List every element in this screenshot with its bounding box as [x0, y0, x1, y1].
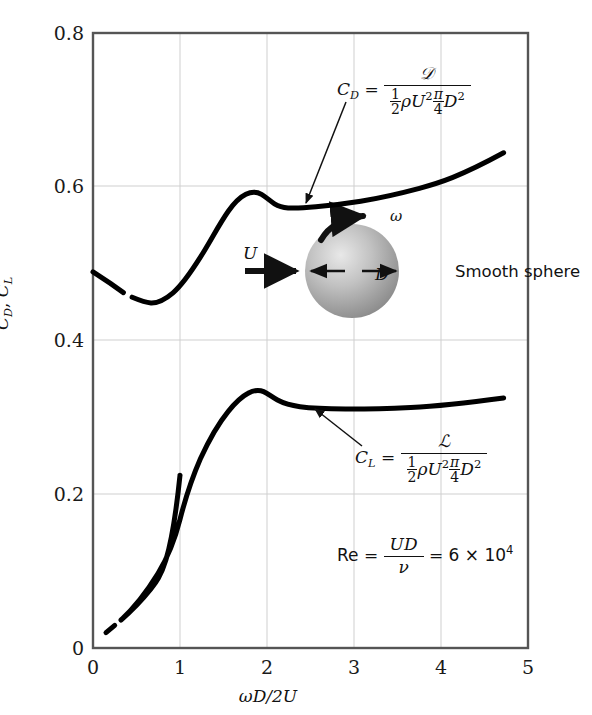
- omega-label: ω: [390, 207, 402, 225]
- cl-u-exponent: 2: [442, 457, 449, 471]
- cd-d: D: [444, 90, 458, 110]
- cd-half-num: 1: [390, 87, 401, 103]
- x-tick-label: 5: [522, 656, 534, 678]
- cd-formula-annotation: CD = 𝒟 12ρU2π4D2: [337, 64, 471, 117]
- y-tick-label: 0.2: [54, 483, 84, 505]
- cd-half-den: 2: [390, 102, 401, 117]
- figure-container: 0.8 0.6 0.4 0.2 0 0 1 2 3 4 5: [0, 0, 592, 715]
- cl-pi-den: 4: [449, 470, 460, 485]
- cd-d-exponent: 2: [457, 89, 464, 103]
- reynolds-annotation: Re = UD ν = 6 × 104: [337, 535, 513, 577]
- x-tick-label: 2: [261, 656, 273, 678]
- x-tick-labels: 0 1 2 3 4 5: [87, 656, 534, 678]
- cl-fraction: ℒ 12ρU2π4D2: [401, 432, 488, 485]
- cd-rho: ρ: [401, 90, 411, 110]
- cd-equals-sign: =: [364, 79, 378, 99]
- x-axis-d: D: [253, 686, 267, 706]
- cd-pi-num: π: [433, 87, 444, 103]
- cd-half-fraction: 12: [390, 87, 401, 117]
- cd-denominator: 12ρU2π4D2: [384, 86, 471, 117]
- smooth-sphere-label: Smooth sphere: [455, 262, 580, 281]
- x-axis-title: ωD/2U: [239, 686, 297, 706]
- cd-u-exponent: 2: [425, 89, 432, 103]
- reynolds-equals-2: =: [429, 545, 443, 565]
- cd-fraction: 𝒟 12ρU2π4D2: [384, 64, 471, 117]
- cl-half-num: 1: [407, 455, 418, 471]
- cl-pi-fraction: π4: [449, 455, 460, 485]
- cd-u: U: [411, 90, 425, 110]
- cl-curve-segment-2: [121, 390, 504, 620]
- cl-curve-segment-1: [106, 625, 115, 632]
- x-tick-label: 0: [87, 656, 99, 678]
- cl-u: U: [427, 458, 441, 478]
- cl-d-exponent: 2: [474, 457, 481, 471]
- cd-symbol: C: [337, 79, 350, 99]
- y-axis-cl-symbol: C: [0, 284, 12, 297]
- reynolds-equals-1: =: [364, 545, 378, 565]
- y-tick-label: 0: [72, 637, 84, 659]
- reynolds-denominator: ν: [384, 557, 424, 578]
- cl-d: D: [460, 458, 474, 478]
- x-tick-label: 3: [348, 656, 360, 678]
- y-axis-title-cd: CD: [0, 308, 12, 330]
- cl-rho: ρ: [417, 458, 427, 478]
- cl-symbol: C: [355, 447, 368, 467]
- y-axis-cd-subscript: D: [2, 308, 15, 317]
- reynolds-symbol: Re: [337, 545, 359, 565]
- reynolds-value-group: 6 × 104: [449, 545, 514, 565]
- reynolds-numerator: UD: [384, 535, 424, 557]
- x-tick-label: 4: [435, 656, 447, 678]
- cl-half-den: 2: [407, 470, 418, 485]
- cd-curve-segment-1: [93, 272, 123, 293]
- cl-equals-sign: =: [381, 447, 395, 467]
- y-tick-label: 0.4: [54, 329, 84, 351]
- y-axis-cl-subscript: L: [2, 277, 15, 284]
- reynolds-exponent: 4: [506, 543, 513, 557]
- curve-cd: [93, 153, 504, 303]
- x-axis-u: U: [283, 686, 297, 706]
- cl-denominator: 12ρU2π4D2: [401, 454, 488, 485]
- x-tick-label: 1: [174, 656, 186, 678]
- y-tick-label: 0.6: [54, 175, 84, 197]
- y-axis-cd-symbol: C: [0, 317, 12, 330]
- reynolds-fraction: UD ν: [384, 535, 424, 577]
- cl-pi-num: π: [449, 455, 460, 471]
- y-tick-label: 0.8: [54, 22, 84, 44]
- cd-numerator-drag: 𝒟: [384, 64, 471, 86]
- cd-subscript: D: [350, 89, 359, 102]
- velocity-label: U: [243, 243, 257, 263]
- x-axis-slash: /2: [266, 686, 283, 706]
- cl-numerator-lift: ℒ: [401, 432, 488, 454]
- cl-formula-annotation: CL = ℒ 12ρU2π4D2: [355, 432, 487, 485]
- cd-annotation-leader: [306, 102, 346, 203]
- curve-cl: [106, 390, 504, 632]
- y-axis-title-cl: CL: [0, 277, 12, 297]
- x-axis-omega: ω: [239, 686, 253, 706]
- diameter-label: D: [375, 264, 389, 284]
- cd-formula-lhs: CD: [337, 79, 359, 99]
- cd-pi-den: 4: [433, 102, 444, 117]
- y-axis-comma: ,: [0, 297, 12, 308]
- reynolds-value: 6 × 10: [449, 545, 507, 565]
- cl-half-fraction: 12: [407, 455, 418, 485]
- cd-pi-fraction: π4: [433, 87, 444, 117]
- cl-formula-lhs: CL: [355, 447, 375, 467]
- y-tick-labels: 0.8 0.6 0.4 0.2 0: [54, 22, 84, 659]
- y-axis-title: CD, CL: [0, 277, 12, 330]
- cl-subscript: L: [368, 457, 375, 470]
- chart-plot: 0.8 0.6 0.4 0.2 0 0 1 2 3 4 5: [0, 0, 592, 715]
